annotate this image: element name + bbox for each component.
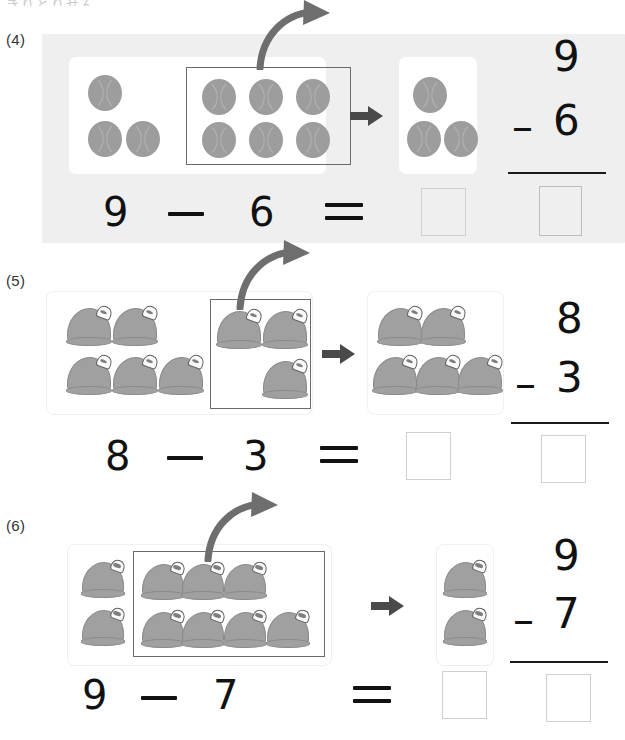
problem-4-eq-minuend: 9 xyxy=(103,192,128,232)
problem-6-eq-equals-sign xyxy=(353,686,391,703)
problem-4-eq-minus-sign xyxy=(168,212,204,216)
problem-4: (4) xyxy=(0,0,625,250)
problem-5-eq-equals-sign xyxy=(320,446,358,463)
problem-4-vertical-rule xyxy=(508,172,606,174)
ball-object xyxy=(444,121,478,157)
ball-object xyxy=(126,121,160,157)
hat-object xyxy=(217,308,261,350)
worksheet-page: きりとりせん (4) xyxy=(0,0,625,740)
problem-6-result-arrow-icon xyxy=(371,595,405,617)
problem-4-eq-equals-sign xyxy=(325,203,363,220)
hat-object xyxy=(224,609,266,649)
hat-object xyxy=(67,305,111,347)
hat-object xyxy=(182,561,224,601)
problem-5-selection-box xyxy=(210,299,311,409)
problem-4-vertical-minuend: 9 xyxy=(553,36,580,78)
problem-4-result-arrow-icon xyxy=(350,105,384,127)
hat-object xyxy=(458,354,502,396)
hat-object xyxy=(224,561,266,601)
hat-object xyxy=(113,354,157,396)
ball-object xyxy=(296,122,330,158)
problem-6-selection-box xyxy=(133,551,325,657)
ball-object xyxy=(296,79,330,115)
hat-object xyxy=(263,308,307,350)
problem-6-number: (6) xyxy=(6,517,25,534)
hat-object xyxy=(444,559,486,599)
problem-4-selection-box xyxy=(186,67,351,165)
problem-6-eq-answer-box xyxy=(442,671,487,719)
hat-object xyxy=(378,305,422,347)
hat-object xyxy=(82,559,124,599)
problem-5-vertical-answer-box xyxy=(541,435,586,483)
problem-6-eq-subtrahend: 7 xyxy=(213,675,238,715)
problem-6-eq-minus-sign xyxy=(141,696,177,700)
hat-object xyxy=(142,609,184,649)
problem-6-vertical-answer-box xyxy=(546,674,591,722)
problem-6-result-card xyxy=(437,545,493,665)
problem-5-number: (5) xyxy=(6,272,25,289)
hat-object xyxy=(67,354,111,396)
problem-5-eq-minuend: 8 xyxy=(105,436,130,476)
problem-6-vertical-rule xyxy=(510,661,608,663)
problem-5-vertical-minus-sign: – xyxy=(515,363,536,405)
hat-object xyxy=(113,305,157,347)
hat-object xyxy=(444,607,486,647)
problem-5-result-arrow-icon xyxy=(322,343,356,365)
problem-4-vertical-answer-box xyxy=(539,186,582,236)
hat-object xyxy=(267,609,309,649)
problem-4-start-card xyxy=(69,57,326,174)
hat-object xyxy=(182,609,224,649)
problem-4-vertical-minus-sign: – xyxy=(512,106,533,148)
problem-5-eq-subtrahend: 3 xyxy=(243,436,268,476)
problem-4-eq-subtrahend: 6 xyxy=(249,192,274,232)
problem-5: (5) xyxy=(0,250,625,495)
problem-5-result-card xyxy=(368,292,503,414)
problem-5-eq-minus-sign xyxy=(167,456,203,460)
hat-object xyxy=(263,358,307,400)
problem-4-result-card xyxy=(399,57,477,174)
problem-5-eq-answer-box xyxy=(406,432,451,480)
ball-object xyxy=(413,77,447,113)
hat-object xyxy=(159,354,203,396)
problem-4-number: (4) xyxy=(6,31,25,48)
hat-object xyxy=(373,354,417,396)
problem-5-vertical-subtrahend: 3 xyxy=(556,357,583,399)
hat-object xyxy=(421,305,465,347)
problem-5-vertical-minuend: 8 xyxy=(556,298,583,340)
problem-4-vertical-subtrahend: 6 xyxy=(553,100,580,142)
hat-object xyxy=(142,561,184,601)
problem-5-vertical-rule xyxy=(511,422,609,424)
ball-object xyxy=(88,75,122,111)
problem-6-vertical-minus-sign: – xyxy=(513,599,534,641)
problem-4-eq-answer-box xyxy=(421,188,466,236)
problem-6: (6) xyxy=(0,495,625,740)
problem-6-start-card xyxy=(68,545,331,665)
hat-object xyxy=(416,354,460,396)
problem-5-start-card xyxy=(47,292,312,414)
problem-6-vertical-subtrahend: 7 xyxy=(553,593,580,635)
problem-6-vertical-minuend: 9 xyxy=(553,535,580,577)
hat-object xyxy=(82,607,124,647)
problem-6-eq-minuend: 9 xyxy=(82,675,107,715)
